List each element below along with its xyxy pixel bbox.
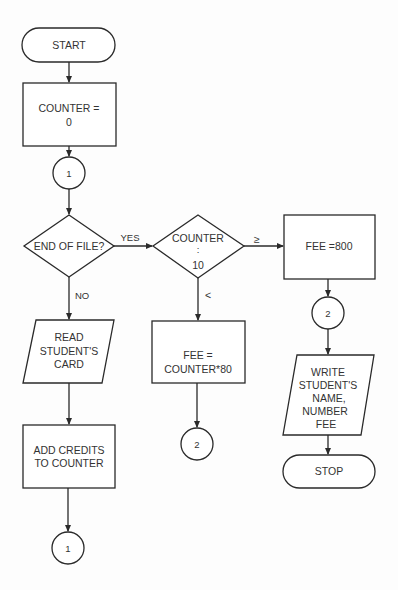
- node-label: ADD CREDITS: [33, 444, 104, 456]
- node-label: 10: [192, 259, 204, 271]
- node-label: 2: [194, 439, 199, 450]
- node-fee-counter: FEE = COUNTER*80: [152, 321, 245, 383]
- node-label: 1: [66, 168, 71, 179]
- node-label: START: [52, 39, 86, 51]
- node-label: CARD: [54, 358, 84, 370]
- node-counter-compare: COUNTER : 10: [153, 215, 244, 278]
- node-label: FEE =800: [306, 240, 353, 252]
- node-label: TO COUNTER: [34, 457, 104, 469]
- label-no: NO: [75, 290, 89, 301]
- node-init-counter: COUNTER = 0: [23, 83, 116, 146]
- node-label: WRITE: [311, 366, 345, 378]
- label-lt: <: [205, 289, 211, 301]
- node-label: 2: [325, 308, 330, 319]
- node-connector-1-top: 1: [53, 157, 85, 189]
- node-label: NAME,: [312, 392, 345, 404]
- node-connector-1-bottom: 1: [52, 532, 84, 564]
- flowchart-diagram: YES NO ≥ < START COUNTER = 0 1 END OF FI…: [0, 0, 398, 590]
- process-shape: [23, 83, 116, 146]
- node-label: FEE: [316, 418, 336, 430]
- node-label: FEE =: [183, 349, 212, 361]
- node-label: COUNTER =: [39, 102, 100, 114]
- node-label: :: [197, 244, 200, 255]
- node-label: 0: [66, 116, 72, 128]
- node-read-card: READ STUDENT'S CARD: [23, 320, 114, 383]
- node-connector-2-right: 2: [312, 297, 344, 329]
- label-yes: YES: [120, 232, 139, 243]
- node-label: STUDENT'S: [299, 379, 358, 391]
- node-stop: STOP: [283, 455, 375, 488]
- node-label: READ: [54, 331, 84, 343]
- node-label: STUDENT'S: [40, 345, 99, 357]
- node-write-output: WRITE STUDENT'S NAME, NUMBER FEE: [283, 355, 374, 435]
- node-fee-800: FEE =800: [284, 215, 375, 279]
- node-add-credits: ADD CREDITS TO COUNTER: [23, 425, 115, 488]
- node-connector-2-mid: 2: [181, 428, 213, 460]
- node-label: STOP: [315, 465, 343, 477]
- node-start: START: [22, 28, 115, 62]
- node-label: COUNTER*80: [164, 363, 232, 375]
- node-label: NUMBER: [302, 405, 348, 417]
- label-gte: ≥: [254, 233, 260, 245]
- node-label: END OF FILE?: [34, 240, 105, 252]
- node-end-of-file: END OF FILE?: [24, 215, 114, 277]
- node-label: COUNTER: [172, 232, 224, 244]
- node-label: 1: [65, 543, 70, 554]
